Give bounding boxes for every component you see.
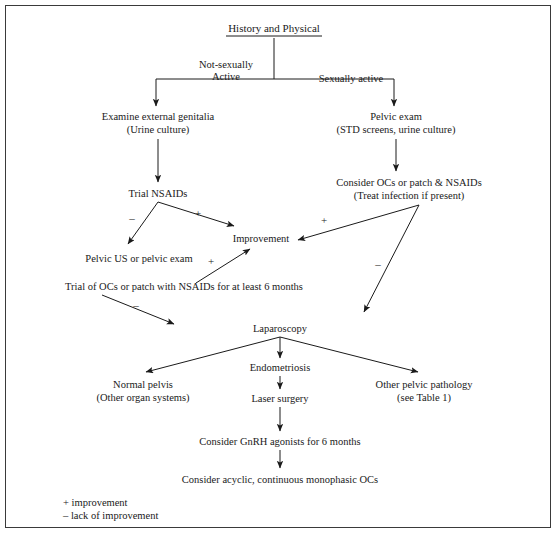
edge-label-trial-nsaids-negative: – — [128, 212, 135, 224]
edge-trial-ocs-positive-to-improvement — [196, 249, 250, 283]
node-other-pelvic-pathology-line1: Other pelvic pathology — [376, 379, 474, 390]
node-consider-ocs-line2: (Treat infection if present) — [354, 190, 465, 202]
legend-plus-improvement: + improvement — [63, 497, 128, 508]
node-trial-of-ocs-or-patch: Trial of OCs or patch with NSAIDs for at… — [65, 281, 303, 292]
edge-consider-ocs-positive-to-improvement — [298, 205, 419, 240]
branch-label-not-sexually-active-line1: Not-sexually — [199, 59, 254, 70]
node-consider-ocs-line1: Consider OCs or patch & NSAIDs — [336, 177, 482, 188]
edge-label-consider-ocs-positive: + — [321, 214, 327, 226]
node-examine-external-genitalia-line2: (Urine culture) — [127, 124, 190, 136]
edge-consider-ocs-negative-to-laparoscopy — [364, 205, 419, 312]
node-pelvic-us-or-pelvic-exam: Pelvic US or pelvic exam — [85, 253, 192, 264]
node-normal-pelvis-line2: (Other organ systems) — [96, 392, 190, 404]
edge-label-consider-ocs-negative: – — [374, 258, 381, 270]
node-other-pelvic-pathology-line2: (see Table 1) — [397, 392, 451, 404]
node-consider-monophasic-ocs: Consider acyclic, continuous monophasic … — [182, 474, 378, 485]
node-laparoscopy: Laparoscopy — [253, 323, 308, 334]
edge-label-trial-ocs-positive: + — [208, 255, 214, 267]
node-pelvic-exam-line1: Pelvic exam — [370, 111, 422, 122]
node-improvement: Improvement — [233, 233, 290, 244]
figure-frame: History and Physical Not-sexually Active… — [5, 5, 551, 528]
edge-label-trial-ocs-negative: – — [132, 299, 139, 311]
node-endometriosis: Endometriosis — [250, 362, 311, 373]
node-examine-external-genitalia-line1: Examine external genitalia — [102, 111, 215, 122]
node-trial-nsaids: Trial NSAIDs — [129, 188, 188, 199]
node-normal-pelvis-line1: Normal pelvis — [113, 379, 173, 390]
edge-label-trial-nsaids-positive: + — [195, 207, 201, 219]
flowchart-diagram: History and Physical Not-sexually Active… — [6, 6, 552, 529]
root-node-label: History and Physical — [228, 22, 320, 34]
branch-label-not-sexually-active-line2: Active — [212, 71, 240, 82]
node-pelvic-exam-line2: (STD screens, urine culture) — [337, 124, 456, 136]
node-laser-surgery: Laser surgery — [251, 393, 309, 404]
node-consider-gnrh-agonists: Consider GnRH agonists for 6 months — [199, 436, 360, 447]
legend-minus-lack-of-improvement: – lack of improvement — [62, 510, 158, 521]
branch-label-sexually-active: Sexually active — [319, 73, 384, 84]
